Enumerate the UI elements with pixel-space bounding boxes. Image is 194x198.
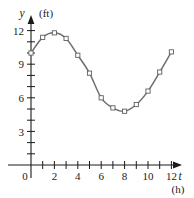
x-axis-label: t bbox=[178, 170, 182, 182]
y-tick-label-3: 3 bbox=[19, 126, 25, 138]
y-axis-arrow-icon bbox=[28, 15, 35, 24]
x-tick-label-6: 6 bbox=[98, 170, 104, 182]
data-point-marker bbox=[123, 109, 127, 113]
data-point-marker bbox=[158, 70, 162, 74]
x-tick-label-12: 12 bbox=[166, 170, 177, 182]
data-point-marker bbox=[41, 35, 45, 39]
data-point-marker bbox=[134, 102, 138, 106]
x-tick-label-2: 2 bbox=[52, 170, 58, 182]
data-point-marker bbox=[87, 71, 91, 75]
y-tick-label-12: 12 bbox=[13, 25, 24, 37]
chart-canvas: 12 9 6 3 0 2 4 6 8 10 12 y (ft) t (h) bbox=[0, 0, 194, 198]
y-axis-label: y bbox=[18, 7, 25, 20]
x-tick-label-4: 4 bbox=[75, 170, 81, 182]
x-tick-label-10: 10 bbox=[143, 170, 155, 182]
y-axis-unit-label: (ft) bbox=[39, 7, 53, 20]
origin-label-0: 0 bbox=[22, 170, 28, 182]
tide-graph-figure: 12 9 6 3 0 2 4 6 8 10 12 y (ft) t (h) bbox=[0, 0, 194, 198]
data-point-marker bbox=[52, 31, 56, 35]
data-point-marker bbox=[99, 96, 103, 100]
data-point-marker bbox=[76, 53, 80, 57]
data-point-marker bbox=[169, 50, 173, 54]
y-tick-label-9: 9 bbox=[19, 58, 25, 70]
data-point-marker bbox=[111, 106, 115, 110]
y-tick-label-6: 6 bbox=[19, 92, 25, 104]
x-axis-arrow-icon bbox=[173, 162, 182, 169]
data-point-marker bbox=[146, 89, 150, 93]
x-tick-label-group: 2 4 6 8 10 12 bbox=[52, 170, 177, 182]
data-point-marker bbox=[64, 36, 68, 40]
x-tick-label-8: 8 bbox=[122, 170, 128, 182]
data-point-markers bbox=[29, 31, 174, 114]
x-axis-unit-label: (h) bbox=[172, 183, 185, 196]
data-point-marker bbox=[29, 51, 33, 55]
data-series-water-depth bbox=[29, 31, 174, 114]
y-tick-label-group: 12 9 6 3 bbox=[13, 25, 25, 138]
